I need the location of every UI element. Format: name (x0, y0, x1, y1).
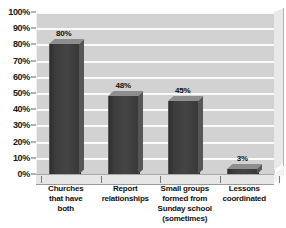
x-axis-label-line: relationships (93, 194, 159, 204)
y-tick-label-10: 10% (13, 153, 30, 163)
x-axis-label-line: Small groups (152, 184, 218, 194)
y-tick-label-90: 90% (13, 23, 30, 33)
x-axis-label-line: that have (33, 194, 99, 204)
bar-value-label-4: 3% (237, 154, 248, 163)
x-axis-label-line: both (33, 204, 99, 214)
x-tick-mark-1 (101, 176, 102, 183)
bar-front-face (168, 101, 200, 174)
x-tick-mark-2 (160, 176, 161, 183)
x-axis-labels: Churchesthat havebothReportrelationships… (36, 184, 286, 228)
bar-value-label-3: 45% (175, 86, 190, 95)
bar-chart: 0%10%20%30%40%50%60%70%80%90%100% 80%48%… (0, 0, 286, 228)
x-tick-mark-4 (279, 176, 280, 183)
y-tick-label-50: 50% (13, 88, 30, 98)
y-tick-label-0: 0% (18, 169, 30, 179)
x-axis-label-line: formed from (152, 194, 218, 204)
y-tick-label-40: 40% (13, 104, 30, 114)
x-axis-ticks (36, 176, 284, 184)
y-axis: 0%10%20%30%40%50%60%70%80%90%100% (0, 0, 36, 228)
bar-2[interactable]: 48% (108, 96, 138, 174)
y-tick-label-70: 70% (13, 56, 30, 66)
x-axis-label-3: Small groupsformed fromSunday school(som… (152, 184, 218, 224)
x-axis-label-line: Lessons (212, 184, 278, 194)
bar-3[interactable]: 45% (168, 101, 198, 174)
bar-1[interactable]: 80% (49, 44, 79, 174)
bar-value-label-1: 80% (56, 29, 71, 38)
bar-side-face (79, 40, 84, 174)
y-tick-label-100: 100% (8, 7, 30, 17)
x-axis-label-4: Lessonscoordinated (212, 184, 278, 204)
bar-front-face (108, 96, 140, 174)
x-axis-label-line: Sunday school (152, 204, 218, 214)
bar-side-face (198, 97, 203, 174)
y-tick-label-80: 80% (13, 39, 30, 49)
x-axis-label-line: (sometimes) (152, 214, 218, 224)
bar-value-label-2: 48% (116, 81, 131, 90)
bar-front-face (49, 44, 81, 174)
y-tick-label-20: 20% (13, 137, 30, 147)
x-tick-mark-0 (41, 176, 42, 183)
y-tick-label-60: 60% (13, 72, 30, 82)
bar-4[interactable]: 3% (227, 169, 257, 174)
x-axis-label-1: Churchesthat haveboth (33, 184, 99, 214)
x-tick-mark-3 (220, 176, 221, 183)
bar-front-face (227, 169, 259, 174)
bars-layer: 80%48%45%3% (36, 8, 284, 178)
bar-side-face (138, 92, 143, 174)
x-axis-label-line: Report (93, 184, 159, 194)
y-tick-label-30: 30% (13, 120, 30, 130)
x-axis-label-line: Churches (33, 184, 99, 194)
x-axis-label-line: coordinated (212, 194, 278, 204)
x-axis-label-2: Reportrelationships (93, 184, 159, 204)
